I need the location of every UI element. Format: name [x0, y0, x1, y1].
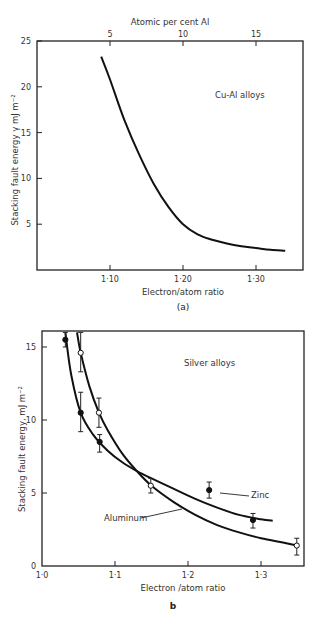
- chart-b: 051015 1·01·11·21·3 Silver alloys Zinc A…: [17, 331, 304, 611]
- plot-frame-a: [37, 41, 303, 270]
- x-tick-label: 1·0: [36, 571, 49, 580]
- zinc-leader-line: [220, 493, 249, 496]
- top-axis-a: 51015: [107, 30, 261, 46]
- y-tick-label: 15: [26, 343, 36, 352]
- x-tick-label: 1·2: [182, 571, 195, 580]
- x-tick-label: 1·20: [174, 275, 192, 284]
- top-tick-label: 5: [107, 30, 112, 39]
- annotation-a: Cu-Al alloys: [215, 90, 265, 100]
- y-axis-label-b: Stacking fault energy, mJ m⁻²: [17, 386, 27, 512]
- y-axis-b: 051015: [26, 343, 47, 571]
- x-axis-label-b: Electron /atom ratio: [141, 583, 226, 593]
- x-tick-label: 1·30: [247, 275, 265, 284]
- x-tick-label: 1·1: [109, 571, 122, 580]
- zinc-data-point: [78, 410, 83, 415]
- y-tick-label: 5: [26, 220, 31, 229]
- zinc-data-point: [250, 517, 255, 522]
- zinc-data-point: [97, 439, 102, 444]
- y-tick-label: 10: [26, 416, 36, 425]
- y-tick-label: 20: [21, 83, 31, 92]
- y-axis-label-a: Stacking fault energy γ mJ m⁻²: [10, 94, 20, 225]
- y-tick-label: 25: [21, 37, 31, 46]
- y-tick-label: 5: [31, 489, 36, 498]
- annotation-b: Silver alloys: [184, 358, 236, 368]
- plot-frame-b: [42, 331, 304, 566]
- zinc-data-point: [207, 487, 212, 492]
- top-tick-label: 15: [251, 30, 261, 39]
- y-tick-label: 0: [31, 562, 36, 571]
- top-tick-label: 10: [178, 30, 188, 39]
- zinc-label: Zinc: [251, 490, 270, 500]
- y-tick-label: 10: [21, 174, 31, 183]
- x-axis-b: 1·01·11·21·3: [36, 561, 268, 580]
- x-tick-label: 1·10: [101, 275, 119, 284]
- caption-a: (a): [177, 302, 190, 312]
- top-axis-label-a: Atomic per cent Al: [131, 17, 210, 27]
- caption-b: b: [170, 601, 177, 611]
- x-tick-label: 1·3: [255, 571, 268, 580]
- zinc-data-point: [63, 337, 68, 342]
- cu-al-curve: [101, 57, 285, 251]
- aluminum-data-point: [148, 483, 153, 488]
- aluminum-data-point: [78, 350, 83, 355]
- zinc-curve: [65, 332, 272, 520]
- y-tick-label: 15: [21, 129, 31, 138]
- x-axis-a: 1·101·201·30: [101, 265, 265, 284]
- aluminum-data-point: [96, 410, 101, 415]
- aluminum-label: Aluminum: [104, 513, 147, 523]
- chart-a: 510152025 1·101·201·30 51015 Cu-Al alloy…: [10, 17, 303, 312]
- x-axis-label-a: Electron/atom ratio: [142, 287, 224, 297]
- aluminum-data-point: [294, 543, 299, 548]
- data-points: [63, 332, 300, 555]
- y-axis-a: 510152025: [21, 37, 42, 229]
- figure: 510152025 1·101·201·30 51015 Cu-Al alloy…: [0, 0, 326, 621]
